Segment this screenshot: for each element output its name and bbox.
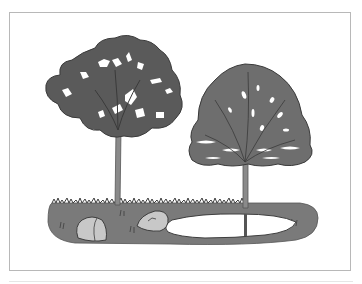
left-tree-canopy — [46, 35, 183, 137]
right-tree-trunk — [243, 160, 248, 208]
scene-illustration — [0, 0, 362, 284]
rock-left — [77, 217, 107, 241]
left-tree-trunk — [115, 130, 121, 205]
right-tree-canopy — [189, 64, 312, 166]
